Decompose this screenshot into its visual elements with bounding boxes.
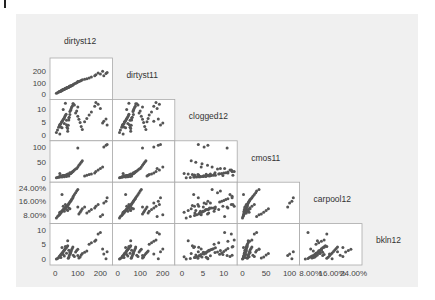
data-point (226, 206, 229, 209)
data-point (292, 196, 295, 199)
data-point (56, 128, 59, 131)
variable-label-dirtyst11: dirtyst11 (126, 70, 158, 80)
data-point (67, 116, 70, 119)
data-point (155, 205, 158, 208)
data-point (258, 188, 261, 191)
data-point (58, 211, 61, 214)
data-point (187, 209, 190, 212)
data-point (159, 250, 162, 253)
data-point (216, 191, 219, 194)
data-point (206, 144, 209, 147)
data-point (81, 128, 84, 131)
data-point (83, 120, 86, 123)
data-point (146, 206, 149, 209)
data-point (214, 207, 217, 210)
data-point (226, 147, 229, 150)
data-point (119, 128, 122, 131)
data-point (68, 85, 71, 88)
data-point (158, 103, 161, 106)
data-point (221, 253, 224, 256)
data-point (290, 257, 293, 260)
data-point (255, 231, 258, 234)
data-point (156, 107, 159, 110)
data-point (214, 246, 217, 249)
y-tick-label: 8.00% (23, 211, 46, 220)
data-point (101, 248, 104, 251)
data-point (197, 246, 200, 249)
data-point (150, 111, 153, 114)
data-point (244, 256, 247, 259)
data-point (122, 255, 125, 258)
data-point (245, 245, 248, 248)
data-point (152, 105, 155, 108)
data-point (157, 257, 160, 260)
data-point (59, 126, 62, 129)
data-point (336, 246, 339, 249)
data-point (122, 132, 125, 135)
data-point (194, 161, 197, 164)
data-point (127, 203, 130, 206)
data-point (55, 131, 58, 134)
data-point (231, 245, 234, 248)
data-point (319, 251, 322, 254)
data-point (88, 114, 91, 117)
data-point (76, 115, 79, 118)
data-point (204, 208, 207, 211)
data-point (203, 145, 206, 148)
data-point (144, 159, 147, 162)
data-point (217, 208, 220, 211)
data-point (140, 188, 143, 191)
data-point (99, 231, 102, 234)
data-point (221, 174, 224, 177)
data-point (199, 210, 202, 213)
data-point (193, 212, 196, 215)
x-tick-label: 100 (71, 269, 85, 278)
data-point (152, 253, 155, 256)
data-point (196, 173, 199, 176)
y-tick-label: 100 (33, 143, 47, 152)
data-point (144, 128, 147, 131)
data-point (90, 173, 93, 176)
data-point (262, 256, 265, 259)
data-point (106, 124, 109, 127)
y-tick-label: 0 (42, 255, 47, 264)
data-point (81, 159, 84, 162)
data-point (223, 215, 226, 218)
data-point (148, 114, 151, 117)
data-point (226, 172, 229, 175)
data-point (68, 171, 71, 174)
y-tick-label: 24.00% (19, 184, 46, 193)
data-point (159, 124, 162, 127)
data-point (208, 249, 211, 252)
data-point (217, 241, 220, 244)
data-point (192, 246, 195, 249)
data-point (147, 117, 150, 120)
data-point (140, 115, 143, 118)
data-point (161, 213, 164, 216)
data-point (141, 118, 144, 121)
data-point (130, 249, 133, 252)
data-point (226, 254, 229, 257)
data-point (211, 188, 214, 191)
data-point (192, 193, 195, 196)
y-tick-label: 0 (42, 131, 47, 140)
y-tick-label: 10 (37, 226, 46, 235)
data-point (233, 170, 236, 173)
data-point (106, 196, 109, 199)
data-point (76, 147, 79, 150)
data-point (126, 122, 129, 125)
data-point (141, 206, 144, 209)
data-point (99, 73, 102, 76)
data-point (216, 251, 219, 254)
data-point (97, 203, 100, 206)
data-point (307, 231, 310, 234)
data-point (134, 105, 137, 108)
data-point (122, 172, 125, 175)
data-point (213, 243, 216, 246)
data-point (194, 253, 197, 256)
data-point (200, 213, 203, 216)
data-point (161, 248, 164, 251)
data-point (137, 104, 140, 107)
data-point (208, 207, 211, 210)
data-point (71, 246, 74, 249)
